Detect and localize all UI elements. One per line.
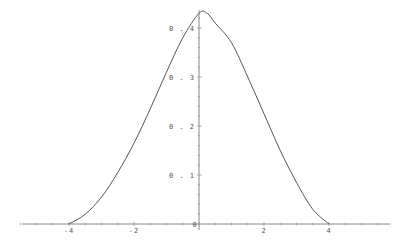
x-tick-label: 4 [326, 227, 331, 235]
x-tick-label: -2 [129, 227, 139, 235]
density-chart: -4-20240 . 10 . 20 . 30 . 4 [0, 0, 403, 246]
tick-labels: -4-20240 . 10 . 20 . 30 . 4 [64, 25, 332, 236]
x-tick-label: -4 [64, 227, 74, 235]
y-tick-label: 0 . 2 [169, 123, 195, 131]
axes [22, 10, 390, 230]
y-tick-label: 0 . 4 [169, 25, 195, 33]
x-tick-label: 2 [261, 227, 266, 235]
y-tick-label: 0 . 1 [169, 172, 195, 180]
x-tick-label: 0 [192, 221, 197, 229]
y-tick-label: 0 . 3 [169, 74, 195, 82]
